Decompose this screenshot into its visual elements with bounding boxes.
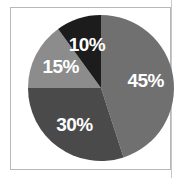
slice-label-15: 15%	[42, 56, 79, 78]
slice-label-30: 30%	[56, 114, 93, 136]
slice-label-10: 10%	[69, 34, 106, 56]
slice-label-45: 45%	[127, 70, 164, 92]
